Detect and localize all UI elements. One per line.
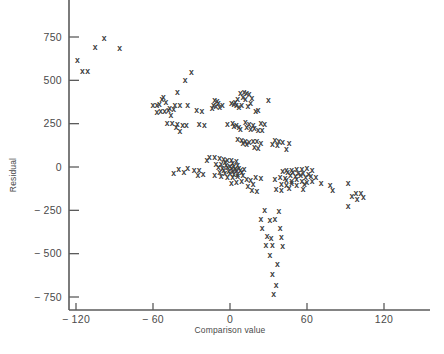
data-point-marker: x: [219, 171, 224, 181]
data-point-marker: x: [244, 139, 249, 149]
data-point-marker: x: [171, 168, 176, 178]
data-point-marker: x: [275, 259, 280, 269]
data-point-marker: x: [239, 176, 244, 186]
y-tick-label: 500: [44, 74, 62, 86]
x-tick-label: − 60: [142, 313, 164, 325]
data-point-marker: x: [183, 75, 188, 85]
data-point-marker: x: [175, 87, 180, 97]
data-point-marker: x: [256, 143, 261, 153]
data-point-marker: x: [220, 100, 225, 110]
data-point-marker: x: [301, 184, 306, 194]
y-axis-ticks: 7505002500− 250− 500− 750: [34, 31, 79, 303]
y-tick-label: 750: [44, 31, 62, 43]
x-tick-label: 0: [227, 313, 233, 325]
data-point-marker: x: [310, 176, 315, 186]
data-point-marker: x: [233, 97, 238, 107]
y-tick-label: 250: [44, 117, 62, 129]
x-tick-label: − 120: [62, 313, 90, 325]
y-tick-label: 0: [56, 161, 62, 173]
x-axis-ticks: − 120− 60060120: [62, 303, 393, 325]
data-point-marker: x: [189, 67, 194, 77]
data-point-marker: x: [264, 240, 269, 250]
chart-container: 7505002500− 250− 500− 750 − 120− 6006012…: [0, 0, 444, 354]
data-point-marker: x: [102, 33, 107, 43]
data-point-marker: x: [266, 95, 271, 105]
data-point-marker: x: [181, 167, 186, 177]
data-point-marker: x: [294, 180, 299, 190]
data-point-marker: x: [260, 125, 265, 135]
data-point-marker: x: [274, 280, 279, 290]
data-point-marker: x: [185, 100, 190, 110]
data-point-marker: x: [196, 170, 201, 180]
data-point-marker: x: [280, 241, 285, 251]
data-point-marker: x: [270, 269, 275, 279]
data-point-marker: x: [234, 177, 239, 187]
data-point-marker: x: [176, 164, 181, 174]
data-point-marker: x: [346, 178, 351, 188]
data-point-marker: x: [212, 170, 217, 180]
x-tick-label: 120: [375, 313, 393, 325]
y-tick-label: − 750: [34, 291, 62, 303]
y-axis-title: Residual: [8, 158, 18, 192]
data-point-marker: x: [355, 194, 360, 204]
data-point-marker: x: [85, 66, 90, 76]
data-point-marker: x: [271, 289, 276, 299]
axes-group: [69, 0, 430, 310]
data-point-marker: x: [253, 106, 258, 116]
data-point-marker: x: [239, 100, 244, 110]
data-point-marker: x: [178, 126, 183, 136]
data-point-marker: x: [346, 201, 351, 211]
x-axis-title: Comparison value: [195, 325, 266, 335]
data-point-marker: x: [75, 55, 80, 65]
data-point-marker: x: [361, 192, 366, 202]
data-point-marker: x: [267, 250, 272, 260]
data-point-marker: x: [93, 42, 98, 52]
data-point-marker: x: [178, 100, 183, 110]
data-point-marker: x: [248, 124, 253, 134]
data-point-marker: x: [205, 155, 210, 165]
data-point-marker: x: [210, 103, 215, 113]
data-point-marker: x: [255, 186, 260, 196]
data-point-marker: x: [258, 173, 263, 183]
data-point-marker: x: [279, 185, 284, 195]
data-point-marker: x: [154, 107, 159, 117]
data-point-marker: x: [199, 106, 204, 116]
data-point-marker: x: [229, 178, 234, 188]
data-point-marker: x: [287, 183, 292, 193]
data-point-marker: x: [184, 120, 189, 130]
scatter-plot: 7505002500− 250− 500− 750 − 120− 6006012…: [0, 0, 444, 354]
data-points-layer: xxxxxxxxxxxxxxxxxxxxxxxxxxxxxxxxxxxxxxxx…: [75, 33, 366, 300]
data-point-marker: x: [117, 43, 122, 53]
data-point-marker: x: [246, 101, 251, 111]
x-tick-label: 60: [301, 313, 313, 325]
data-point-marker: x: [201, 169, 206, 179]
data-point-marker: x: [284, 144, 289, 154]
y-tick-label: − 500: [34, 247, 62, 259]
data-point-marker: x: [275, 140, 280, 150]
data-point-marker: x: [330, 185, 335, 195]
data-point-marker: x: [319, 178, 324, 188]
data-point-marker: x: [202, 120, 207, 130]
y-tick-label: − 250: [34, 204, 62, 216]
data-point-marker: x: [273, 174, 278, 184]
